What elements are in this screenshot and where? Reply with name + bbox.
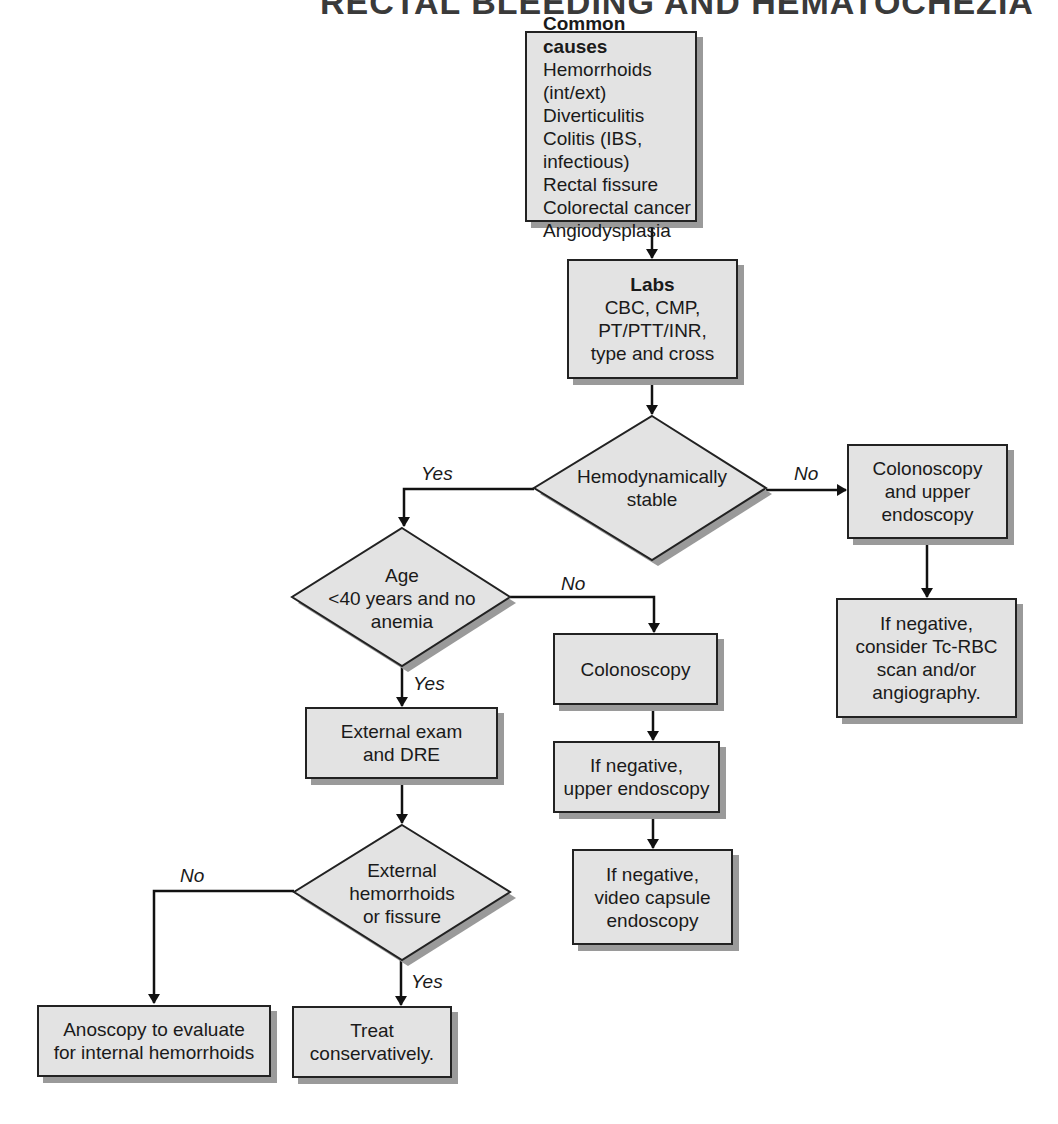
box-line: for internal hemorrhoids: [54, 1041, 255, 1064]
box-line: scan and/or: [877, 658, 976, 681]
box-line: Treat: [350, 1019, 394, 1042]
decision-line: Hemodynamically: [577, 465, 727, 488]
anoscopy-box: Anoscopy to evaluate for internal hemorr…: [37, 1005, 271, 1077]
tc-rbc-box: If negative, consider Tc-RBC scan and/or…: [836, 598, 1017, 718]
box-line: If negative,: [590, 754, 683, 777]
box-line: video capsule: [594, 886, 710, 909]
cause-item: Rectal fissure: [543, 173, 658, 196]
decision-line: stable: [627, 488, 678, 511]
decision-line: or fissure: [363, 905, 441, 928]
box-line: Colonoscopy: [873, 457, 983, 480]
box-line: angiography.: [872, 681, 980, 704]
labs-line: CBC, CMP,: [605, 296, 701, 319]
hemodynamically-stable-text: Hemodynamically stable: [554, 462, 750, 514]
common-causes-box: Common causes Hemorrhoids (int/ext) Dive…: [525, 31, 697, 222]
treat-conservatively-box: Treat conservatively.: [292, 1006, 452, 1078]
cause-item: Colorectal cancer: [543, 196, 691, 219]
common-causes-heading: Common causes: [543, 12, 695, 58]
edge-label-stable-yes: Yes: [421, 463, 453, 485]
box-line: and upper: [885, 480, 971, 503]
edge-label-age-no: No: [561, 573, 585, 595]
decision-line: Age: [385, 564, 419, 587]
colonoscopy-upper-endoscopy-box: Colonoscopy and upper endoscopy: [847, 444, 1008, 539]
colonoscopy-box: Colonoscopy: [553, 633, 718, 705]
box-line: endoscopy: [607, 909, 699, 932]
box-line: endoscopy: [882, 503, 974, 526]
box-line: Colonoscopy: [581, 658, 691, 681]
external-exam-box: External exam and DRE: [305, 707, 498, 779]
labs-line: type and cross: [591, 342, 715, 365]
upper-endoscopy-box: If negative, upper endoscopy: [553, 741, 720, 813]
edge-label-stable-no: No: [794, 463, 818, 485]
video-capsule-box: If negative, video capsule endoscopy: [572, 849, 733, 945]
labs-heading: Labs: [630, 273, 674, 296]
decision-line: External: [367, 859, 437, 882]
box-line: External exam: [341, 720, 462, 743]
cause-item: Angiodysplasia: [543, 219, 671, 242]
cause-item: Colitis (IBS, infectious): [543, 127, 695, 173]
box-line: If negative,: [880, 612, 973, 635]
decision-line: anemia: [371, 610, 433, 633]
box-line: conservatively.: [310, 1042, 434, 1065]
external-hemorrhoids-text: External hemorrhoids or fissure: [322, 857, 482, 929]
cause-item: Hemorrhoids (int/ext): [543, 58, 695, 104]
edge-label-ext-yes: Yes: [411, 971, 443, 993]
decision-line: hemorrhoids: [349, 882, 455, 905]
box-line: If negative,: [606, 863, 699, 886]
decision-line: <40 years and no: [328, 587, 475, 610]
labs-box: Labs CBC, CMP, PT/PTT/INR, type and cros…: [567, 259, 738, 379]
box-line: and DRE: [363, 743, 440, 766]
box-line: consider Tc-RBC: [855, 635, 997, 658]
edge-label-ext-no: No: [180, 865, 204, 887]
box-line: Anoscopy to evaluate: [63, 1018, 245, 1041]
box-line: upper endoscopy: [564, 777, 710, 800]
labs-line: PT/PTT/INR,: [598, 319, 707, 342]
age-decision-text: Age <40 years and no anemia: [312, 562, 492, 634]
edge-label-age-yes: Yes: [413, 673, 445, 695]
cause-item: Diverticulitis: [543, 104, 644, 127]
